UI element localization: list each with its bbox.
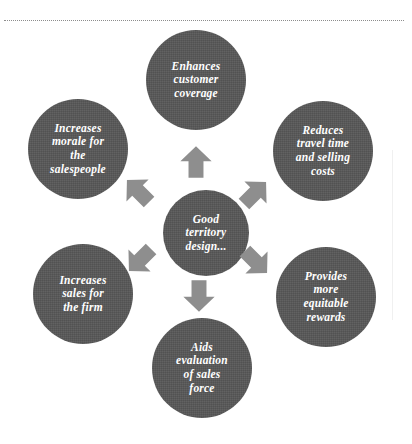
node-label: Reduces travel time and selling costs: [290, 124, 356, 178]
arrow-down-left-icon: [123, 243, 157, 277]
node-label: Increases morale for the salespeople: [44, 122, 112, 176]
arrow-up-right-icon: [238, 176, 272, 210]
node-increases-morale-for-the-salespeople: Increases morale for the salespeople: [28, 99, 128, 199]
node-enhances-customer-coverage: Enhances customer coverage: [146, 30, 246, 130]
arrow-up-left-icon: [121, 174, 155, 208]
right-vertical-rule: [392, 150, 393, 320]
diagram-canvas: Enhances customer coverage Increases mor…: [0, 0, 412, 444]
center-node-label: Good territory design...: [179, 213, 232, 254]
node-reduces-travel-time-and-selling-costs: Reduces travel time and selling costs: [273, 101, 373, 201]
node-aids-evaluation-of-sales-force: Aids evaluation of sales force: [152, 318, 252, 418]
node-increases-sales-for-the-firm: Increases sales for the firm: [33, 244, 133, 344]
node-label: Enhances customer coverage: [166, 60, 227, 101]
top-dotted-rule: [4, 20, 404, 21]
node-provides-more-equitable-rewards: Provides more equitable rewards: [276, 247, 376, 347]
node-label: Aids evaluation of sales force: [170, 341, 234, 395]
node-label: Increases sales for the firm: [53, 274, 112, 315]
node-label: Provides more equitable rewards: [297, 270, 354, 324]
arrow-down-right-icon: [239, 245, 273, 279]
arrow-down-icon: [182, 279, 216, 313]
arrow-up-icon: [179, 145, 213, 179]
node-good-territory-design: Good territory design...: [163, 190, 249, 276]
